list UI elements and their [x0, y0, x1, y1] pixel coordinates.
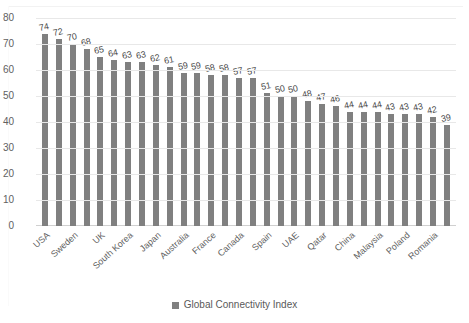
bar-value-label: 43 [398, 102, 410, 113]
bar-value-label: 57 [246, 66, 258, 77]
bar[interactable] [402, 114, 408, 226]
category-slot: Qatar [315, 228, 329, 290]
category-label: USA [31, 230, 51, 250]
gridline [36, 70, 456, 71]
bar[interactable] [70, 44, 76, 226]
bar[interactable] [208, 75, 214, 226]
bar-value-label: 44 [357, 100, 369, 111]
bar-value-label: 57 [232, 66, 244, 77]
y-axis-tick-label: 60 [0, 65, 14, 75]
bar-chart: 7472706865646363626159595858575751505048… [0, 0, 469, 323]
bar-value-label: 42 [426, 105, 438, 116]
category-slot: Malaysia [371, 228, 385, 290]
bar[interactable] [153, 65, 159, 226]
y-axis-tick-label: 70 [0, 39, 14, 49]
category-slot: China [343, 228, 357, 290]
chart-frame-top [8, 6, 463, 7]
bar-value-label: 65 [94, 45, 106, 56]
category-slot: Japan [149, 228, 163, 290]
y-axis-tick-label: 80 [0, 13, 14, 23]
bar-value-label: 47 [315, 92, 327, 103]
y-axis-tick-label: 30 [0, 143, 14, 153]
bar[interactable] [388, 114, 394, 226]
bar[interactable] [375, 112, 381, 226]
bar[interactable] [264, 93, 270, 226]
x-axis-category-labels: USASwedenUKSouth KoreaJapanAustraliaFran… [36, 228, 456, 290]
category-slot: Sweden [66, 228, 80, 290]
plot-area-wrapper: 7472706865646363626159595858575751505048… [36, 18, 456, 226]
bar[interactable] [291, 96, 297, 226]
bar[interactable] [430, 117, 436, 226]
bar-value-label: 58 [218, 63, 230, 74]
bar-value-label: 50 [288, 84, 300, 95]
gridline [36, 122, 456, 123]
bar-value-label: 48 [301, 89, 313, 100]
bar-value-label: 68 [80, 37, 92, 48]
bar[interactable] [42, 34, 48, 226]
category-label: UK [91, 230, 107, 246]
bar[interactable] [167, 67, 173, 226]
bar-value-label: 44 [371, 100, 383, 111]
chart-frame-left [8, 6, 9, 306]
gridline [36, 200, 456, 201]
plot-area: 7472706865646363626159595858575751505048… [36, 18, 456, 226]
bar[interactable] [444, 125, 450, 226]
gridline [36, 44, 456, 45]
bar[interactable] [361, 112, 367, 226]
y-axis-tick-label: 40 [0, 117, 14, 127]
bar[interactable] [56, 39, 62, 226]
bar[interactable] [222, 75, 228, 226]
bar-value-label: 44 [343, 100, 355, 111]
bar[interactable] [236, 78, 242, 226]
bar[interactable] [250, 78, 256, 226]
bar[interactable] [416, 114, 422, 226]
legend-label: Global Connectivity Index [184, 300, 297, 310]
bar-value-label: 51 [260, 82, 272, 93]
y-axis-tick-label: 50 [0, 91, 14, 101]
y-axis-tick-label: 20 [0, 169, 14, 179]
bar[interactable] [305, 101, 311, 226]
category-slot: Australia [177, 228, 191, 290]
category-slot: Romania [426, 228, 440, 290]
y-axis-tick-label: 10 [0, 195, 14, 205]
bar-value-label: 63 [121, 50, 133, 61]
bar-value-label: 43 [412, 102, 424, 113]
bar[interactable] [139, 62, 145, 226]
category-slot: South Korea [121, 228, 135, 290]
bar-value-label: 61 [163, 56, 175, 67]
bar-value-label: 50 [274, 84, 286, 95]
chart-legend: Global Connectivity Index [0, 300, 469, 310]
bar-value-label: 72 [52, 27, 64, 38]
bar-value-label: 43 [385, 102, 397, 113]
bar-value-label: 62 [149, 53, 161, 64]
gridline [36, 18, 456, 19]
bar-value-label: 74 [38, 22, 50, 33]
category-slot: USA [38, 228, 52, 290]
bar-value-label: 58 [204, 63, 216, 74]
category-slot: UAE [287, 228, 301, 290]
category-slot: Spain [260, 228, 274, 290]
gridline [36, 174, 456, 175]
bar-value-label: 64 [107, 48, 119, 59]
category-slot: Canada [232, 228, 246, 290]
bar[interactable] [125, 62, 131, 226]
bar[interactable] [111, 60, 117, 226]
y-axis-tick-label: 0 [0, 221, 14, 231]
legend-swatch-icon [172, 302, 179, 309]
category-slot [440, 228, 454, 290]
bar[interactable] [347, 112, 353, 226]
bar[interactable] [278, 96, 284, 226]
bar-value-label: 70 [66, 32, 78, 43]
bar-value-label: 63 [135, 50, 147, 61]
bar[interactable] [333, 106, 339, 226]
gridline [36, 148, 456, 149]
category-slot: France [204, 228, 218, 290]
gridline [36, 96, 456, 97]
